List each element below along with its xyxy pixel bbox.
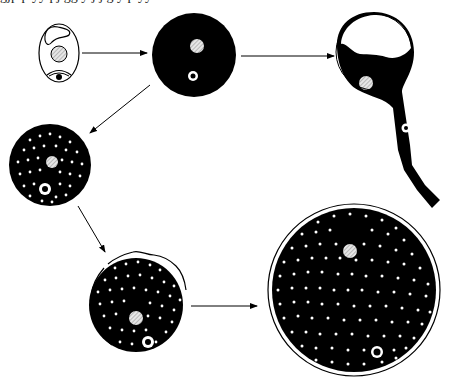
dark-rounded-cell	[152, 13, 236, 97]
nucleus	[51, 46, 67, 62]
nucleus	[129, 311, 143, 325]
granular-cell	[9, 124, 91, 206]
mature-cyst	[268, 204, 440, 376]
nucleus	[343, 244, 357, 258]
germinating-cell	[336, 12, 440, 208]
initial-cell	[39, 24, 79, 82]
diagram-canvas	[0, 0, 452, 383]
arrow-2-to-4	[90, 85, 150, 133]
encapsulating-cell	[89, 252, 186, 352]
arrow-4-to-5	[78, 206, 105, 252]
nucleus	[190, 39, 204, 53]
nucleus	[46, 156, 58, 168]
eye-organelle	[56, 74, 62, 80]
